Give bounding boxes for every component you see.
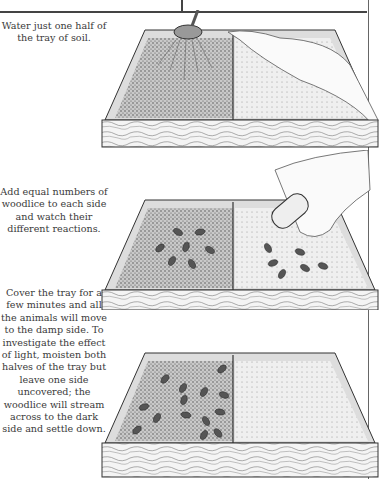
wet-soil-half: [115, 38, 233, 118]
tray-adding-woodlice-illustration: [100, 150, 380, 310]
step-1-caption: Water just one half of the tray of soil.: [0, 20, 108, 45]
step-3-caption: Cover the tray for a few minutes and all…: [0, 287, 108, 436]
step-2-caption: Add equal numbers of woodlice to each si…: [0, 186, 108, 236]
tray-watering-illustration: [100, 10, 380, 160]
tray-woodlice-dark-side-illustration: [100, 345, 380, 479]
watering-can-rose: [174, 25, 202, 39]
